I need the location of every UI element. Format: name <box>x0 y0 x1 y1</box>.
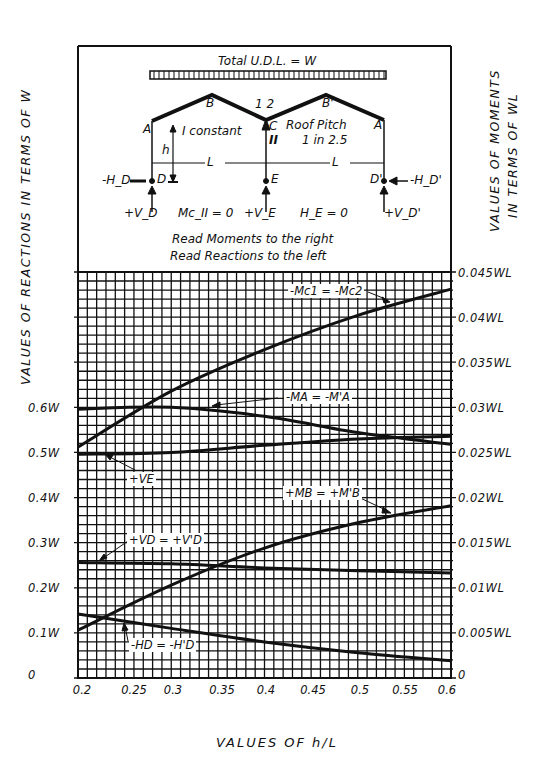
load-label: Total U.D.L. = W <box>218 54 316 68</box>
y-left-tick-5: 0.5W <box>28 446 60 460</box>
x-axis-title: VALUES OF h/L <box>216 735 338 750</box>
y-left-tick-4: 0.4W <box>28 491 60 505</box>
node-label-d-prime: D' <box>370 172 383 186</box>
condition-moment: Mc_II = 0 <box>178 206 233 220</box>
x-tick-3: 0.35 <box>209 683 235 697</box>
node-label-a-prime: A <box>374 118 382 132</box>
roof-pitch-line1: Roof Pitch <box>286 118 347 132</box>
chart-canvas <box>0 0 547 762</box>
stiffness-note: I constant <box>182 124 242 138</box>
node-label-c: C <box>269 119 277 133</box>
curve-label-mb: +MB = +M'B <box>283 486 362 500</box>
y-axis-right-title-line1: VALUES OF MOMENTS <box>486 69 504 232</box>
x-tick-6: 0.5 <box>351 683 369 697</box>
y-axis-right-title: VALUES OF MOMENTSIN TERMS OF WL <box>486 69 522 232</box>
height-label: h <box>162 143 170 157</box>
y-left-tick-0: 0 <box>28 668 36 682</box>
curve-label-ma: -MA = -M'A <box>284 390 352 404</box>
span-label-1: L <box>207 155 214 169</box>
curve-label-ve: +VE <box>127 472 156 486</box>
y-right-tick-6: 0.03WL <box>458 401 504 415</box>
reaction-hd-prime: -H_D' <box>410 173 442 187</box>
y-left-tick-1: 0.1W <box>28 626 60 640</box>
y-right-tick-2: 0.01WL <box>458 581 504 595</box>
node-label-d: D <box>157 172 166 186</box>
x-tick-8: 0.6 <box>438 683 456 697</box>
note-moments: Read Moments to the right <box>172 232 333 246</box>
y-right-tick-9: 0.045WL <box>458 266 512 280</box>
y-right-tick-8: 0.04WL <box>458 311 504 325</box>
reaction-vd: +V_D <box>124 206 158 220</box>
node-label-b-prime: B' <box>322 96 334 110</box>
node-label-a: A <box>143 122 151 136</box>
y-right-tick-0: 0 <box>458 668 466 682</box>
y-right-tick-3: 0.015WL <box>458 536 512 550</box>
roof-pitch-line2: 1 in 2.5 <box>302 133 347 147</box>
y-left-tick-3: 0.3W <box>28 536 60 550</box>
udl-load-bar <box>150 71 386 79</box>
curve-label-vd: +VD = +V'D <box>127 533 204 547</box>
y-axis-right-title-line2: IN TERMS OF WL <box>504 69 522 232</box>
x-tick-0: 0.2 <box>73 683 91 697</box>
node-label-b: B <box>206 96 214 110</box>
x-tick-5: 0.45 <box>300 683 326 697</box>
slope-marks: 1 2 <box>255 97 274 111</box>
condition-horizontal: H_E = 0 <box>300 206 348 220</box>
y-right-tick-5: 0.025WL <box>458 446 512 460</box>
x-tick-2: 0.3 <box>164 683 182 697</box>
y-left-tick-6: 0.6W <box>28 401 60 415</box>
x-tick-4: 0.4 <box>257 683 275 697</box>
span-label-2: L <box>332 155 339 169</box>
x-tick-7: 0.55 <box>392 683 418 697</box>
x-tick-1: 0.25 <box>121 683 147 697</box>
y-right-tick-4: 0.02WL <box>458 491 504 505</box>
y-left-tick-2: 0.2W <box>28 581 60 595</box>
reaction-ve: +V_E <box>244 206 276 220</box>
portal-frame <box>130 95 408 212</box>
y-axis-left-title: VALUES OF REACTIONS IN TERMS OF W <box>18 89 33 385</box>
curve-label-mc: -Mc1 = -Mc2 <box>288 284 364 298</box>
reaction-hd: -H_D <box>102 173 131 187</box>
y-right-tick-1: 0.005WL <box>458 626 512 640</box>
note-reactions: Read Reactions to the left <box>170 249 326 263</box>
curve-label-hd: -HD = -H'D <box>129 638 196 652</box>
column-label: II <box>269 133 278 147</box>
node-label-e: E <box>271 172 279 186</box>
y-right-tick-7: 0.035WL <box>458 356 512 370</box>
reaction-vd-prime: +V_D' <box>384 206 421 220</box>
